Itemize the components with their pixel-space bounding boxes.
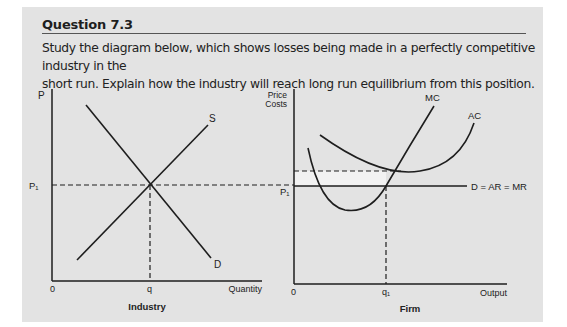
loss-area [294,171,386,186]
mc-curve [308,106,434,211]
question-text-line-1: Study the diagram below, which shows los… [42,39,552,75]
firm-p1-label: P₁ [280,186,290,197]
question-title: Question 7.3 [42,17,133,32]
firm-x-axis-label: Output [480,288,508,298]
industry-origin-label: 0 [50,284,55,294]
ac-curve [320,123,474,172]
industry-graph: P P₁ S D 0 q Quantity Industry [29,89,294,312]
demand-curve [86,105,211,258]
firm-caption: Firm [400,303,421,314]
industry-caption: Industry [128,301,166,312]
firm-graph: Price Costs P₁ MC AC D = AR = MR 0 q₁ Ou… [265,89,527,314]
industry-q-label: q [147,284,152,294]
supply-label: S [209,113,216,124]
mc-label: MC [425,92,440,103]
firm-q1-label: q₁ [382,287,390,297]
industry-x-axis-label: Quantity [228,284,262,294]
firm-origin-label: 0 [291,287,296,297]
question-text-line-2: short run. Explain how the industry will… [42,75,552,93]
firm-y-axis-label-costs: Costs [265,99,287,109]
industry-p1-label: P₁ [29,180,39,191]
question-text: Study the diagram below, which shows los… [42,39,552,93]
ac-label: AC [468,110,481,121]
title-rule [42,33,526,34]
demand-label: D [214,259,221,270]
demand-ar-mr-label: D = AR = MR [471,181,527,192]
supply-curve [77,125,208,260]
